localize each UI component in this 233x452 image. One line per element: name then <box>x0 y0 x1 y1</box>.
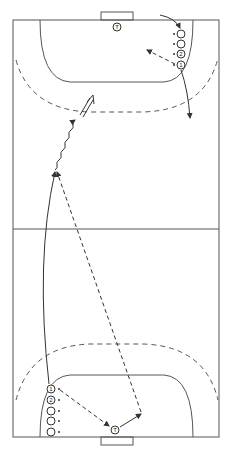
top-goal <box>101 12 133 20</box>
bottom-pass-to-goalkeeper <box>60 390 109 426</box>
handball-court-diagram: T 2 1 T 1 2 <box>0 0 233 452</box>
bottom-goal <box>101 437 133 445</box>
top-player-queue: 2 1 <box>173 30 185 69</box>
bottom-player-5 <box>47 428 55 436</box>
bottom-player-4 <box>47 417 55 425</box>
bottom-player-queue: 1 2 <box>47 385 60 436</box>
top-run-arrow-down <box>181 70 190 118</box>
top-player-4 <box>177 30 185 38</box>
bottom-goalkeeper: T <box>111 426 119 434</box>
svg-text:T: T <box>113 427 117 433</box>
bottom-player-3 <box>47 407 55 415</box>
top-pass-arrow <box>147 50 175 64</box>
top-player-3 <box>177 40 185 48</box>
player-run-arrow <box>43 172 55 384</box>
top-run-arrow-in <box>160 15 180 28</box>
goalkeeper-pass-out <box>120 414 141 427</box>
shot-arrow <box>80 95 94 117</box>
long-pass-arrow <box>57 172 141 412</box>
top-goalkeeper: T <box>113 23 121 31</box>
svg-text:T: T <box>115 24 119 30</box>
dribble-arrow <box>55 120 75 170</box>
top-free-throw-line <box>16 58 218 112</box>
